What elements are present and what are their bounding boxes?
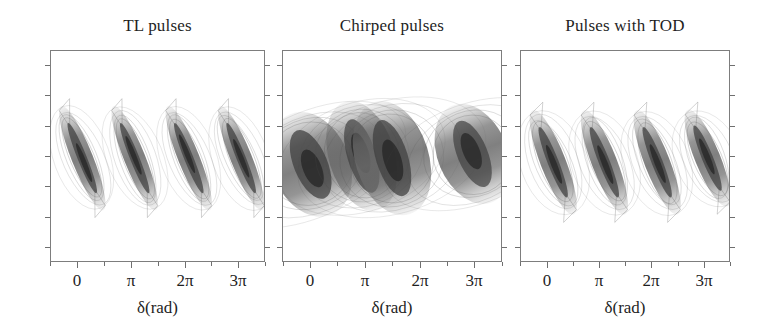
- contour-plot-pulses-with-tod: [521, 51, 729, 261]
- x-axis-label-tl-pulses: δ(rad): [50, 298, 265, 318]
- x-axis-label-chirped-pulses: δ(rad): [282, 298, 502, 318]
- y-tick: [277, 65, 282, 66]
- y-tick-right: [265, 65, 270, 66]
- y-tick-right: [265, 95, 270, 96]
- x-tick-label: 0: [306, 271, 315, 291]
- plot-area-chirped-pulses: [282, 50, 502, 262]
- y-tick: [515, 217, 520, 218]
- x-tick-label: 2π: [411, 271, 428, 291]
- panel-title-pulses-with-tod: Pulses with TOD: [520, 16, 730, 36]
- x-tick-label: 0: [543, 271, 552, 291]
- x-tick-minor: [337, 262, 338, 266]
- x-tick-minor: [211, 262, 212, 266]
- y-tick-right: [265, 126, 270, 127]
- y-tick-right: [730, 95, 735, 96]
- plot-area-tl-pulses: [50, 50, 265, 262]
- y-tick: [45, 126, 50, 127]
- x-tick-label: 3π: [465, 271, 482, 291]
- x-tick-label: 0: [73, 271, 82, 291]
- y-tick-right: [730, 217, 735, 218]
- x-tick-minor: [573, 262, 574, 266]
- y-tick: [45, 186, 50, 187]
- panel-title-tl-pulses: TL pulses: [50, 16, 265, 36]
- y-tick: [277, 217, 282, 218]
- y-tick: [515, 156, 520, 157]
- y-tick: [277, 247, 282, 248]
- x-tick-major: [185, 262, 186, 268]
- y-tick: [515, 126, 520, 127]
- y-tick-right: [265, 217, 270, 218]
- x-tick-minor: [104, 262, 105, 266]
- y-tick-right: [502, 247, 507, 248]
- x-tick-major: [704, 262, 705, 268]
- y-tick: [45, 156, 50, 157]
- y-tick-right: [265, 247, 270, 248]
- x-tick-major: [310, 262, 311, 268]
- y-tick-right: [730, 65, 735, 66]
- x-axis-label-pulses-with-tod: δ(rad): [520, 298, 730, 318]
- y-tick-right: [730, 186, 735, 187]
- x-tick-minor: [730, 262, 731, 266]
- plot-area-pulses-with-tod: [520, 50, 730, 262]
- y-tick: [277, 126, 282, 127]
- y-tick: [45, 95, 50, 96]
- y-tick: [45, 247, 50, 248]
- panel-title-chirped-pulses: Chirped pulses: [282, 16, 502, 36]
- x-tick-label: π: [127, 271, 136, 291]
- y-tick: [45, 65, 50, 66]
- x-tick-major: [474, 262, 475, 268]
- y-tick-right: [265, 156, 270, 157]
- x-tick-label: 3π: [695, 271, 712, 291]
- x-tick-label: 2π: [176, 271, 193, 291]
- x-tick-minor: [265, 262, 266, 266]
- y-tick: [515, 65, 520, 66]
- y-tick-right: [502, 126, 507, 127]
- x-tick-major: [651, 262, 652, 268]
- panel-pulses-with-tod: Pulses with TOD0π2π3πδ(rad): [520, 50, 730, 262]
- x-tick-minor: [447, 262, 448, 266]
- x-tick-major: [131, 262, 132, 268]
- x-tick-minor: [502, 262, 503, 266]
- y-tick: [515, 95, 520, 96]
- x-tick-major: [365, 262, 366, 268]
- x-tick-minor: [392, 262, 393, 266]
- y-tick: [515, 186, 520, 187]
- x-tick-major: [547, 262, 548, 268]
- y-tick: [277, 95, 282, 96]
- x-tick-label: π: [361, 271, 370, 291]
- x-tick-minor: [678, 262, 679, 266]
- y-tick-right: [502, 186, 507, 187]
- panel-chirped-pulses: Chirped pulses0π2π3πδ(rad): [282, 50, 502, 262]
- x-tick-label: π: [595, 271, 604, 291]
- x-tick-major: [238, 262, 239, 268]
- y-tick: [277, 186, 282, 187]
- y-tick-right: [730, 156, 735, 157]
- y-tick: [515, 247, 520, 248]
- y-tick: [45, 217, 50, 218]
- x-tick-label: 2π: [642, 271, 659, 291]
- x-tick-label: 3π: [229, 271, 246, 291]
- x-tick-major: [420, 262, 421, 268]
- x-tick-minor: [283, 262, 284, 266]
- x-tick-minor: [158, 262, 159, 266]
- x-tick-minor: [520, 262, 521, 266]
- x-tick-minor: [625, 262, 626, 266]
- x-tick-minor: [50, 262, 51, 266]
- contour-plot-chirped-pulses: [283, 51, 501, 261]
- y-tick-right: [502, 156, 507, 157]
- y-tick-right: [502, 65, 507, 66]
- panel-tl-pulses: TL pulses0π2π3πδ(rad): [50, 50, 265, 262]
- x-tick-major: [77, 262, 78, 268]
- y-tick-right: [502, 95, 507, 96]
- y-tick-right: [730, 247, 735, 248]
- y-tick: [277, 156, 282, 157]
- y-tick-right: [265, 186, 270, 187]
- figure-canvas: TL pulses0π2π3πδ(rad)Chirped pulses0π2π3…: [0, 0, 777, 326]
- x-tick-major: [599, 262, 600, 268]
- y-tick-right: [730, 126, 735, 127]
- y-tick-right: [502, 217, 507, 218]
- contour-plot-tl-pulses: [51, 51, 264, 261]
